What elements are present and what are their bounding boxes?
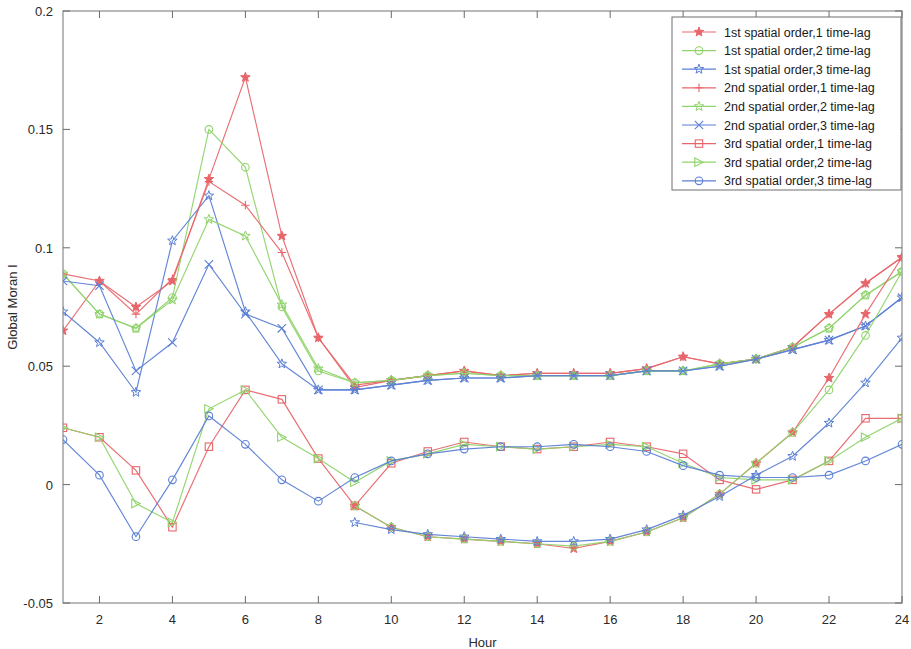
legend-label: 3rd spatial order,3 time-lag: [724, 174, 872, 188]
y-tick-label: 0: [46, 478, 53, 493]
x-tick-label: 18: [676, 612, 690, 627]
x-tick-label: 12: [457, 612, 471, 627]
figure-container: 24681012141618202224-0.0500.050.10.150.2…: [0, 0, 911, 649]
x-tick-label: 8: [315, 612, 322, 627]
moran-index-line-chart: 24681012141618202224-0.0500.050.10.150.2…: [0, 0, 911, 649]
x-tick-label: 20: [749, 612, 763, 627]
x-tick-label: 4: [169, 612, 176, 627]
legend-label: 3rd spatial order,2 time-lag: [724, 156, 872, 170]
y-tick-label: 0.05: [28, 359, 53, 374]
legend-label: 1st spatial order,2 time-lag: [724, 44, 871, 58]
legend-label: 2nd spatial order,2 time-lag: [724, 100, 875, 114]
x-axis-title: Hour: [468, 635, 497, 649]
y-tick-label: 0.15: [28, 122, 53, 137]
legend: 1st spatial order,1 time-lag1st spatial …: [672, 17, 901, 190]
legend-label: 2nd spatial order,1 time-lag: [724, 81, 875, 95]
y-tick-label: -0.05: [23, 596, 53, 611]
y-tick-label: 0.1: [35, 241, 53, 256]
legend-label: 3rd spatial order,1 time-lag: [724, 137, 872, 151]
x-tick-label: 16: [603, 612, 617, 627]
x-tick-label: 14: [530, 612, 544, 627]
x-tick-label: 2: [96, 612, 103, 627]
y-tick-label: 0.2: [35, 4, 53, 19]
y-axis-title: Global Moran I: [5, 264, 20, 349]
x-tick-label: 10: [384, 612, 398, 627]
legend-label: 2nd spatial order,3 time-lag: [724, 119, 875, 133]
legend-label: 1st spatial order,3 time-lag: [724, 63, 871, 77]
legend-label: 1st spatial order,1 time-lag: [724, 26, 871, 40]
x-tick-label: 24: [895, 612, 909, 627]
x-tick-label: 6: [242, 612, 249, 627]
x-tick-label: 22: [822, 612, 836, 627]
